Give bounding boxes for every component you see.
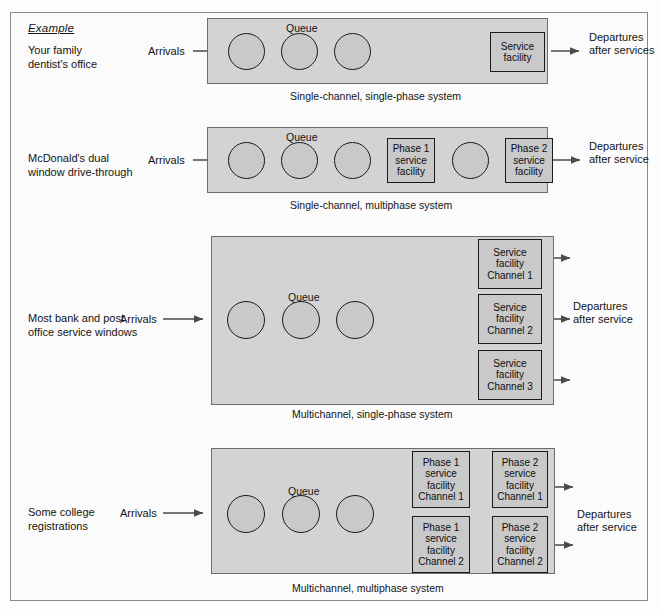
facility-phase-2-service-facility-channel-2: Phase 2 service facility Channel 2 xyxy=(492,516,548,573)
row-label-1: Your family dentist's office xyxy=(28,44,97,71)
departures-label-2: Departures after service xyxy=(589,140,649,166)
departures-label-3: Departures after service xyxy=(573,300,633,326)
caption-3: Multichannel, single-phase system xyxy=(292,408,453,420)
facility-service-facility-channel-2: Service facility Channel 2 xyxy=(478,294,542,344)
caption-2: Single-channel, multiphase system xyxy=(290,199,452,211)
queue-circle-2-c xyxy=(334,142,371,179)
queue-circle-1-c xyxy=(334,33,371,70)
queue-circle-1-a xyxy=(228,33,265,70)
queue-circle-4-b xyxy=(282,495,320,533)
diagram-root: Example Your family dentist's office McD… xyxy=(0,0,660,614)
facility-phase-2-service-facility-channel-1: Phase 2 service facility Channel 1 xyxy=(492,451,548,508)
facility-service-facility-channel-3: Service facility Channel 3 xyxy=(478,350,542,400)
queue-circle-3-c xyxy=(336,301,374,339)
queue-circle-4-a xyxy=(227,495,265,533)
caption-4: Multichannel, multiphase system xyxy=(292,582,444,594)
caption-1: Single-channel, single-phase system xyxy=(290,90,461,102)
facility-phase-1-service-facility-channel-2: Phase 1 service facility Channel 2 xyxy=(412,516,470,573)
queue-circle-2-d xyxy=(452,142,489,179)
arrivals-label-4: Arrivals xyxy=(120,507,157,519)
facility-phase-2-service-facility-2: Phase 2 service facility xyxy=(505,138,553,183)
departures-label-1: Departures after services xyxy=(589,31,654,57)
facility-service-facility-1: Service facility xyxy=(490,32,545,72)
facility-phase-1-service-facility-2: Phase 1 service facility xyxy=(387,138,435,183)
row-label-4: Some college registrations xyxy=(28,506,95,533)
queue-circle-4-c xyxy=(336,495,374,533)
queue-circle-2-b xyxy=(281,142,318,179)
arrivals-label-2: Arrivals xyxy=(148,154,185,166)
row-label-2: McDonald's dual window drive-through xyxy=(28,152,133,179)
departures-label-4: Departures after service xyxy=(577,508,637,534)
arrivals-label-3: Arrivals xyxy=(120,313,157,325)
queue-circle-3-b xyxy=(282,301,320,339)
queue-circle-2-a xyxy=(228,142,265,179)
queue-circle-1-b xyxy=(281,33,318,70)
facility-phase-1-service-facility-channel-1: Phase 1 service facility Channel 1 xyxy=(412,451,470,508)
queue-circle-3-a xyxy=(227,301,265,339)
example-heading: Example xyxy=(28,22,98,34)
facility-service-facility-channel-1: Service facility Channel 1 xyxy=(478,239,542,289)
arrivals-label-1: Arrivals xyxy=(148,45,185,57)
